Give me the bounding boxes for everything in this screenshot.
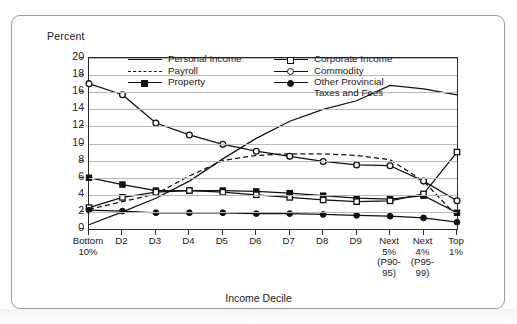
series-payroll [89, 154, 457, 216]
legend-marker-icon [287, 80, 294, 87]
series-line [89, 154, 457, 216]
legend-key-icon [274, 59, 308, 60]
data-point-marker [186, 132, 192, 138]
y-tick-mark [80, 177, 84, 178]
y-tick-label: 0 [48, 221, 84, 233]
y-tick-label: 8 [48, 153, 84, 165]
gridline [89, 144, 457, 145]
legend-label: Corporate Income [314, 53, 392, 64]
data-point-marker [287, 153, 293, 159]
series-corporate-income [86, 149, 459, 210]
series-line [89, 85, 457, 224]
y-tick-mark [80, 91, 84, 92]
series-commodity [86, 81, 460, 204]
data-point-marker [320, 197, 325, 202]
data-point-marker [454, 198, 460, 204]
y-tick-mark [80, 108, 84, 109]
series-personal-income [89, 85, 457, 224]
y-tick-label: 12 [48, 118, 84, 130]
data-point-marker [421, 178, 427, 184]
legend-marker-icon [287, 57, 294, 64]
data-point-marker [354, 212, 360, 218]
y-tick-label: 16 [48, 84, 84, 96]
data-point-marker [421, 215, 427, 221]
data-point-marker [253, 148, 259, 154]
y-tick-mark [80, 125, 84, 126]
y-tick-label: 10 [48, 136, 84, 148]
legend-label: Commodity [314, 65, 364, 76]
y-tick-mark [80, 143, 84, 144]
data-point-marker [354, 199, 359, 204]
series-line [89, 84, 457, 201]
y-tick-mark [80, 211, 84, 212]
gridline [89, 178, 457, 179]
legend-marker-icon [141, 80, 148, 87]
data-point-marker [454, 149, 459, 154]
page-shadow [0, 309, 517, 324]
legend-label: Personal Income [168, 53, 242, 64]
data-point-marker [354, 162, 360, 168]
data-point-marker [120, 182, 125, 187]
y-axis: 20181614121086420 [48, 57, 84, 230]
series-other-provincial-taxes-and-fees [86, 207, 460, 225]
data-point-marker [387, 198, 392, 203]
gridline [89, 161, 457, 162]
y-tick-label: 20 [48, 50, 84, 62]
data-point-marker [187, 188, 192, 193]
gridline [89, 195, 457, 196]
legend-marker-icon [287, 68, 294, 75]
y-tick-label: 14 [48, 101, 84, 113]
data-point-marker [86, 81, 92, 87]
y-tick-mark [80, 57, 84, 58]
data-point-marker [153, 120, 159, 126]
gridline [89, 212, 457, 213]
y-tick-mark [80, 160, 84, 161]
y-axis-title: Percent [47, 30, 85, 42]
legend-key-icon [274, 71, 308, 72]
x-tick-label: Top1% [429, 236, 483, 257]
y-tick-mark [80, 194, 84, 195]
x-axis-title: Income Decile [0, 292, 517, 304]
gridline [89, 126, 457, 127]
y-tick-label: 2 [48, 204, 84, 216]
y-tick-label: 4 [48, 187, 84, 199]
legend-key-icon [128, 82, 162, 83]
x-axis-labels: Bottom10%D2D3D4D5D6D7D8D9Next5%(P90-95)N… [60, 236, 490, 291]
legend: Personal IncomePayrollProperty Corporate… [128, 54, 360, 98]
figure: Percent 20181614121086420 Bottom10%D2D3D… [0, 0, 517, 324]
data-point-marker [387, 163, 393, 169]
y-tick-mark [80, 228, 84, 229]
y-tick-label: 6 [48, 170, 84, 182]
y-tick-mark [80, 74, 84, 75]
legend-label: Other ProvincialTaxes and Fees [314, 76, 384, 98]
data-point-marker [454, 219, 460, 225]
legend-key-icon [274, 82, 308, 83]
y-tick-label: 18 [48, 67, 84, 79]
data-point-marker [387, 213, 393, 219]
legend-key-icon [128, 59, 162, 60]
legend-label: Property [168, 76, 205, 87]
legend-key-icon [128, 71, 162, 72]
gridline [89, 109, 457, 110]
legend-label: Payroll [168, 65, 198, 76]
